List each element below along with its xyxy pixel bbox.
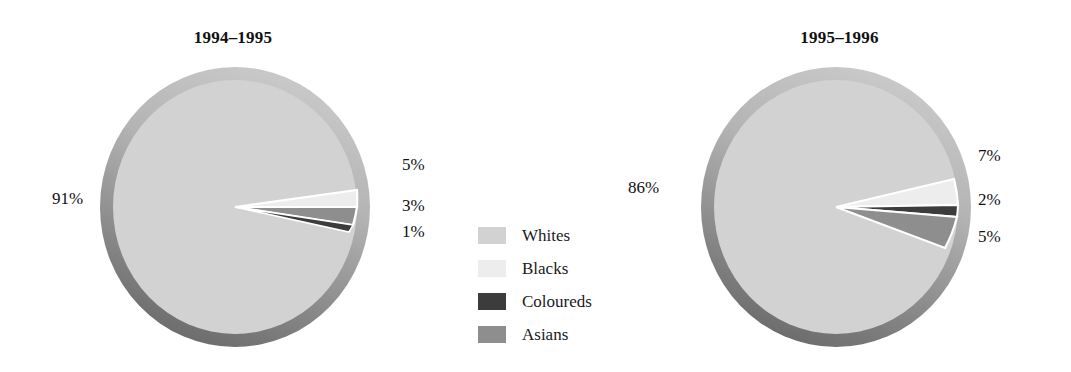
legend-item-whites: Whites <box>478 222 600 248</box>
pie-chart-1995-1996: 1995–1996 <box>600 0 1071 372</box>
pct-label-whites-left: 91% <box>52 189 83 209</box>
legend-label-whites: Whites <box>522 227 570 244</box>
pie-svg-left <box>85 62 385 352</box>
pct-label-asians-right: 5% <box>978 227 1001 247</box>
pct-label-blacks-left: 5% <box>402 155 425 175</box>
pct-label-asians-left: 3% <box>402 196 425 216</box>
legend-swatch-asians <box>478 326 506 343</box>
pie-svg-right <box>686 62 986 352</box>
legend-label-blacks: Blacks <box>522 260 568 277</box>
legend-swatch-blacks <box>478 260 506 277</box>
pie-chart-1994-1995: 1994–1995 <box>0 0 470 372</box>
legend-swatch-coloureds <box>478 293 506 310</box>
legend-item-asians: Asians <box>478 321 600 347</box>
chart-canvas: 1994–1995 <box>0 0 1071 372</box>
legend-item-blacks: Blacks <box>478 255 600 281</box>
pct-label-coloureds-left: 1% <box>402 222 425 242</box>
chart-title-left: 1994–1995 <box>0 28 468 48</box>
pct-label-coloureds-right: 2% <box>978 190 1001 210</box>
chart-title-right: 1995–1996 <box>604 28 1071 48</box>
chart-legend: Whites Blacks Coloureds Asians <box>478 222 600 354</box>
pct-label-blacks-right: 7% <box>978 146 1001 166</box>
legend-swatch-whites <box>478 227 506 244</box>
legend-label-coloureds: Coloureds <box>522 293 592 310</box>
legend-label-asians: Asians <box>522 326 568 343</box>
pct-label-whites-right: 86% <box>628 178 659 198</box>
legend-item-coloureds: Coloureds <box>478 288 600 314</box>
